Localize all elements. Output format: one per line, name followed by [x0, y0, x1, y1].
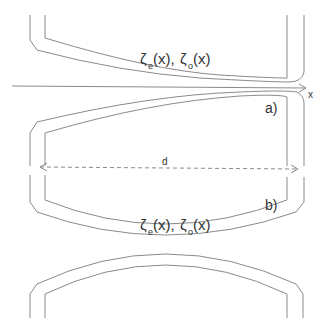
zeta-e-symbol: ζ	[140, 50, 147, 67]
middle-upper-wall	[30, 91, 304, 166]
panel-a-label: a)	[265, 100, 277, 116]
zeta-o-symbol: ζ	[180, 50, 187, 67]
zeta-o-argument: (x)	[193, 50, 211, 67]
panel-b-label: b)	[265, 197, 277, 213]
zeta-e-argument: (x),	[153, 216, 175, 233]
x-axis-label: x	[308, 89, 313, 100]
zeta-o-symbol: ζ	[180, 216, 187, 233]
zeta-e-symbol: ζ	[140, 216, 147, 233]
distance-d-arrow	[40, 163, 298, 173]
zeta-e-argument: (x),	[153, 50, 175, 67]
bottom-wall	[30, 254, 303, 318]
distance-label: d	[162, 156, 168, 167]
zeta-o-argument: (x)	[193, 216, 211, 233]
diagram-canvas: ζ e (x), ζ o (x) ζ e (x), ζ o (x) x a) b…	[0, 0, 330, 334]
top-wall	[30, 15, 304, 82]
top-function-label: ζ e (x), ζ o (x)	[140, 50, 211, 71]
